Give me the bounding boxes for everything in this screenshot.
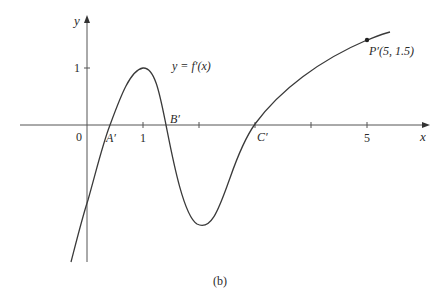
x-tick-label-5: 5 bbox=[364, 131, 370, 145]
derivative-graph: y x 0 1 5 1 y = f′(x) A′ B′ C′ P′(5, 1.5… bbox=[0, 0, 446, 304]
x-tick-label-1: 1 bbox=[140, 131, 146, 145]
origin-label: 0 bbox=[76, 130, 82, 144]
derivative-curve bbox=[71, 32, 390, 262]
x-axis-label: x bbox=[419, 129, 426, 144]
a-prime-label: A′ bbox=[105, 131, 116, 145]
y-tick-label-1: 1 bbox=[74, 61, 80, 75]
p-prime-label: P′(5, 1.5) bbox=[368, 44, 414, 58]
point-p-prime bbox=[365, 38, 369, 42]
x-axis-arrow-icon bbox=[422, 122, 430, 128]
b-prime-label: B′ bbox=[170, 112, 180, 126]
figure-caption: (b) bbox=[213, 274, 227, 288]
curve-label: y = f′(x) bbox=[171, 59, 211, 73]
y-axis-label: y bbox=[72, 13, 80, 28]
y-axis-arrow-icon bbox=[84, 15, 90, 23]
c-prime-label: C′ bbox=[257, 130, 268, 144]
